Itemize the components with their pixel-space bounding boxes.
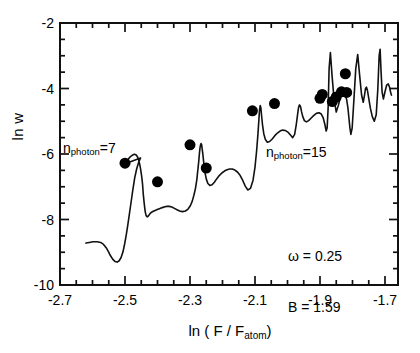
- data-point: [269, 98, 280, 109]
- data-point: [120, 158, 131, 169]
- b-parameter: B = 1.59: [288, 299, 342, 316]
- x-tick-label: -2.1: [230, 293, 280, 307]
- y-tick-label: -8: [12, 213, 54, 227]
- y-tick-label: -10: [12, 278, 54, 292]
- data-point: [185, 139, 196, 150]
- y-tick-label: -2: [12, 16, 54, 30]
- annotation-n-photon-low: nphoton=7: [63, 140, 116, 160]
- parameter-annotation-block: ω = 0.25 B = 1.59: [288, 214, 342, 350]
- data-point: [317, 89, 328, 100]
- x-axis-title-subscript: atom: [244, 330, 266, 341]
- x-axis-title: ln ( F / Fatom): [60, 322, 400, 341]
- theory-curve-line: [86, 49, 392, 262]
- annotation-symbol: n: [266, 144, 274, 160]
- data-point: [201, 163, 212, 174]
- y-tick-label: -4: [12, 82, 54, 96]
- data-point: [247, 105, 258, 116]
- annotation-symbol: n: [63, 140, 71, 156]
- annotation-n-photon-high: nphoton=15: [266, 144, 327, 164]
- figure-chart-ln-w-vs-ln-F: ln w ln ( F / Fatom) -2-4-6-8-10 -2.7-2.…: [0, 0, 420, 353]
- data-point: [340, 68, 351, 79]
- annotation-subscript: photon: [71, 146, 100, 157]
- data-point: [341, 87, 352, 98]
- experimental-data-points: [120, 68, 353, 187]
- annotation-value: =7: [100, 140, 116, 156]
- data-point: [152, 176, 163, 187]
- x-tick-label: -2.5: [100, 293, 150, 307]
- x-tick-label: -2.3: [165, 293, 215, 307]
- y-tick-label: -6: [12, 147, 54, 161]
- x-tick-label: -2.7: [35, 293, 85, 307]
- x-tick-label: -1.7: [360, 293, 410, 307]
- omega-parameter: ω = 0.25: [288, 248, 342, 265]
- y-axis-title: ln w: [9, 112, 26, 142]
- annotation-value: =15: [303, 144, 327, 160]
- annotation-subscript: photon: [274, 150, 303, 161]
